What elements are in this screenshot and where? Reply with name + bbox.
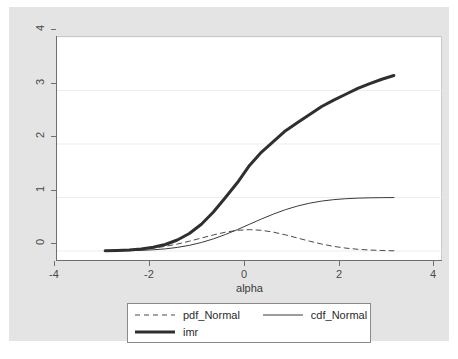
legend-label-pdf-normal: pdf_Normal bbox=[183, 309, 240, 321]
plot-area bbox=[57, 36, 442, 260]
legend-row-2: imr bbox=[134, 324, 198, 340]
x-tick-label-neg2: -2 bbox=[134, 268, 164, 280]
plot-canvas bbox=[57, 37, 442, 261]
x-tick-mark-4 bbox=[433, 261, 434, 266]
legend-entry-imr[interactable]: imr bbox=[134, 326, 198, 338]
legend-row-1: pdf_Normal cdf_Normal bbox=[134, 307, 367, 323]
x-tick-mark-neg2 bbox=[149, 261, 150, 266]
x-tick-label-neg4: -4 bbox=[39, 268, 69, 280]
y-tick-label-2: 2 bbox=[34, 128, 46, 142]
graph-region: 4 3 2 1 0 -4 -2 0 2 4 alpha bbox=[9, 7, 449, 341]
y-tick-label-0: 0 bbox=[34, 235, 46, 249]
y-tick-label-3: 3 bbox=[34, 75, 46, 89]
legend-entry-pdf-normal[interactable]: pdf_Normal bbox=[134, 309, 240, 321]
legend-entry-cdf-normal[interactable]: cdf_Normal bbox=[262, 309, 367, 321]
x-tick-label-0: 0 bbox=[229, 268, 259, 280]
x-tick-mark-2 bbox=[339, 261, 340, 266]
chart-figure: 4 3 2 1 0 -4 -2 0 2 4 alpha bbox=[0, 0, 458, 359]
thick-solid-line-icon bbox=[134, 327, 176, 337]
gridlines bbox=[57, 37, 442, 251]
legend-label-cdf-normal: cdf_Normal bbox=[311, 309, 367, 321]
thin-solid-line-icon bbox=[262, 310, 304, 320]
data-curves bbox=[105, 76, 394, 251]
x-tick-label-2: 2 bbox=[324, 268, 354, 280]
y-tick-label-1: 1 bbox=[34, 182, 46, 196]
y-tick-label-4: 4 bbox=[34, 21, 46, 35]
x-tick-mark-0 bbox=[244, 261, 245, 266]
x-tick-label-4: 4 bbox=[418, 268, 448, 280]
legend: pdf_Normal cdf_Normal bbox=[127, 303, 371, 343]
legend-label-imr: imr bbox=[183, 326, 198, 338]
x-axis-title: alpha bbox=[57, 282, 442, 294]
dashed-line-icon bbox=[134, 310, 176, 320]
y-tick-mark-4 bbox=[51, 29, 56, 30]
curve-cdf_Normal bbox=[105, 198, 394, 251]
x-tick-mark-neg4 bbox=[54, 261, 55, 266]
